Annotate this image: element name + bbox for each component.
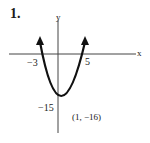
x-intercept-right: 5 [85, 57, 90, 67]
arrow-left-icon [36, 36, 44, 45]
vertex-label: (1, −16) [72, 112, 101, 122]
x-intercept-left: −3 [27, 58, 38, 68]
y-intercept-label: −15 [38, 103, 54, 113]
arrow-right-icon [81, 36, 89, 45]
y-axis-label: y [56, 12, 61, 22]
parabola-curve [40, 42, 85, 96]
x-axis-label: x [137, 48, 142, 58]
